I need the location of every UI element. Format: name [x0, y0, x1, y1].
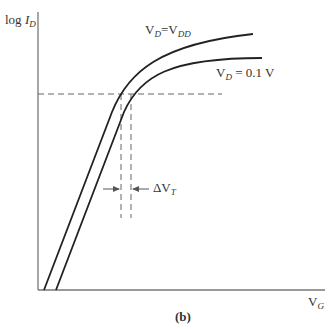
y-axis-label: log ID [5, 12, 36, 29]
label-eq: =V [161, 22, 178, 37]
label-sub2: DD [178, 29, 191, 39]
y-label-sub: D [29, 19, 36, 29]
curve-vd-0.1v [56, 58, 262, 290]
label-eq: = 0.1 V [232, 65, 275, 80]
diagram-canvas [0, 0, 336, 329]
y-label-prefix: log [5, 12, 25, 27]
x-axis-label: VG [308, 294, 324, 311]
label-var: V [145, 22, 154, 37]
figure-caption: (b) [175, 309, 191, 325]
curve-label-vd-vdd: VD=VDD [145, 22, 191, 39]
delta-vt-symbol: ΔV [153, 180, 171, 195]
x-label-sub: G [317, 301, 324, 311]
label-var: V [216, 65, 225, 80]
arrow-right-head-icon [113, 186, 120, 192]
delta-vt-label: ΔVT [153, 180, 176, 197]
delta-vt-sub: T [171, 187, 176, 197]
arrow-left-head-icon [132, 186, 139, 192]
curve-label-vd-0.1v: VD = 0.1 V [216, 65, 274, 82]
x-label-var: V [308, 294, 317, 309]
label-sub: D [154, 29, 161, 39]
label-sub: D [225, 72, 232, 82]
